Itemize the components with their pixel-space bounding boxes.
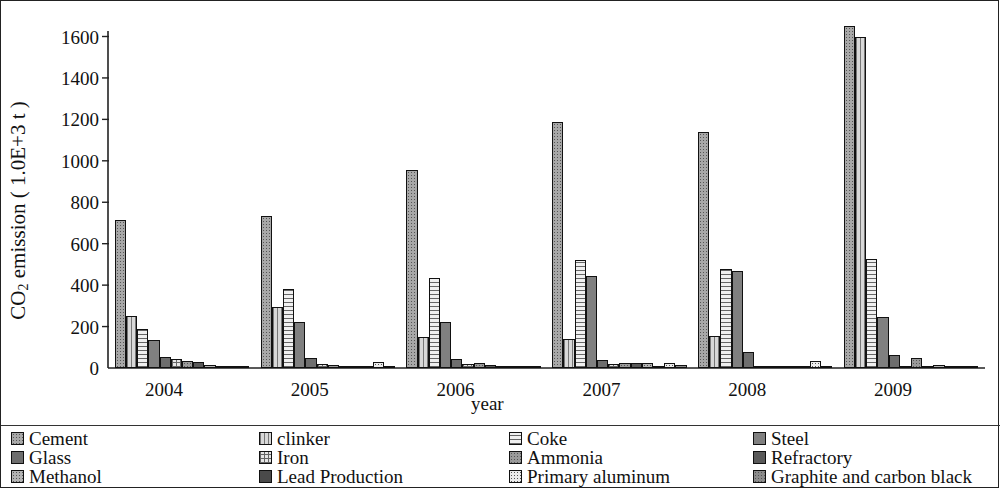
bar	[664, 363, 675, 368]
bar	[171, 359, 182, 368]
bar	[474, 363, 485, 368]
bar	[956, 366, 967, 368]
legend-swatch-icon	[753, 451, 766, 464]
bar	[485, 365, 496, 368]
x-tick-2008: 2008	[728, 379, 766, 401]
x-tick-2004: 2004	[145, 379, 183, 401]
bar	[563, 339, 574, 368]
legend-label: Methanol	[29, 467, 102, 486]
bar	[754, 366, 765, 368]
legend-label: Coke	[527, 429, 567, 448]
x-axis-label: year	[471, 393, 504, 415]
legend-swatch-icon	[753, 470, 766, 483]
bar	[160, 357, 171, 368]
legend-label: Ammonia	[527, 448, 603, 467]
legend-swatch-icon	[509, 470, 522, 483]
bar	[328, 365, 339, 368]
bar	[294, 322, 305, 368]
bar	[339, 366, 350, 368]
bar	[799, 366, 810, 368]
x-tick-2009: 2009	[874, 379, 912, 401]
legend-item[interactable]: Methanol	[11, 467, 102, 486]
legend-swatch-icon	[509, 451, 522, 464]
bar	[877, 317, 888, 368]
bar	[866, 259, 877, 368]
bar	[788, 366, 799, 368]
bar	[732, 271, 743, 368]
bar	[193, 362, 204, 368]
legend-label: Refractory	[771, 448, 852, 467]
bar	[889, 355, 900, 368]
legend-swatch-icon	[11, 451, 24, 464]
bar	[115, 220, 126, 368]
bar	[631, 363, 642, 368]
bar	[653, 366, 664, 368]
bar	[575, 260, 586, 368]
bar	[272, 307, 283, 368]
bar	[440, 322, 451, 368]
legend-label: clinker	[277, 429, 330, 448]
legend-label: Cement	[29, 429, 88, 448]
bar	[518, 366, 529, 368]
bar	[709, 336, 720, 368]
bar	[597, 360, 608, 368]
bar	[451, 359, 462, 368]
legend-item[interactable]: Ammonia	[509, 448, 603, 467]
bar	[137, 329, 148, 368]
bar	[373, 362, 384, 368]
legend-swatch-icon	[11, 470, 24, 483]
legend-item[interactable]: Coke	[509, 429, 567, 448]
legend-swatch-icon	[509, 432, 522, 445]
legend-item[interactable]: Lead Production	[259, 467, 403, 486]
bar	[945, 366, 956, 368]
bar	[967, 366, 978, 368]
bar	[821, 366, 832, 368]
legend-label: Steel	[771, 429, 809, 448]
bar	[227, 366, 238, 368]
bar	[507, 366, 518, 368]
bar	[462, 364, 473, 368]
legend-swatch-icon	[259, 451, 272, 464]
legend-item[interactable]: Cement	[11, 429, 88, 448]
bar	[675, 365, 686, 368]
bar	[317, 364, 328, 368]
bar	[305, 358, 316, 368]
bar	[911, 358, 922, 368]
bar	[608, 364, 619, 368]
legend-label: Graphite and carbon black	[771, 467, 972, 486]
bar	[361, 366, 372, 368]
legend-swatch-icon	[259, 432, 272, 445]
bar	[238, 366, 249, 368]
legend-swatch-icon	[753, 432, 766, 445]
bar	[765, 366, 776, 368]
legend-label: Glass	[29, 448, 71, 467]
bar	[810, 361, 821, 368]
bar	[552, 122, 563, 368]
legend-swatch-icon	[11, 432, 24, 445]
bar	[530, 366, 541, 368]
legend-swatch-icon	[259, 470, 272, 483]
legend-item[interactable]: Graphite and carbon black	[753, 467, 972, 486]
legend-item[interactable]: Glass	[11, 448, 71, 467]
bar	[261, 216, 272, 368]
legend-label: Lead Production	[277, 467, 403, 486]
legend-item[interactable]: Steel	[753, 429, 809, 448]
bar	[496, 366, 507, 368]
bar	[844, 26, 855, 368]
bar	[283, 289, 294, 368]
legend-item[interactable]: clinker	[259, 429, 330, 448]
x-tick-2007: 2007	[582, 379, 620, 401]
bar	[720, 269, 731, 368]
bar	[429, 278, 440, 368]
legend-item[interactable]: Refractory	[753, 448, 852, 467]
legend-item[interactable]: Primary aluminum	[509, 467, 670, 486]
bar	[418, 337, 429, 368]
bar	[855, 37, 866, 369]
plot-area	[109, 23, 984, 368]
bar	[216, 366, 227, 368]
bar	[900, 366, 911, 368]
bar	[148, 340, 159, 368]
bar	[350, 366, 361, 368]
legend-item[interactable]: Iron	[259, 448, 309, 467]
